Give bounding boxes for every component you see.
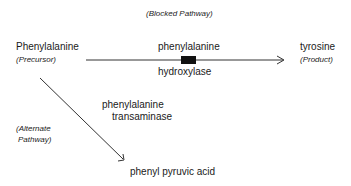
alternate-enzyme-line1: phenylalanine <box>102 99 164 110</box>
precursor-name: Phenylalanine <box>16 41 79 52</box>
alternate-pathway-label-line2: Pathway) <box>18 135 51 145</box>
pathway-arrows <box>0 0 351 186</box>
blocked-enzyme-line1: phenylalanine <box>158 41 220 52</box>
product-role: (Product) <box>300 55 333 65</box>
precursor-role: (Precursor) <box>16 55 56 65</box>
alternate-product-name: phenyl pyruvic acid <box>130 166 215 177</box>
product-name: tyrosine <box>300 41 335 52</box>
alternate-pathway-label-line1: (Alternate <box>16 124 51 134</box>
block-marker-icon <box>181 56 196 64</box>
blocked-enzyme-line2: hydroxylase <box>158 66 211 77</box>
alternate-enzyme-line2: transaminase <box>112 111 172 122</box>
blocked-pathway-title: (Blocked Pathway) <box>146 9 213 19</box>
alternate-pathway-arrow-line <box>40 78 123 159</box>
